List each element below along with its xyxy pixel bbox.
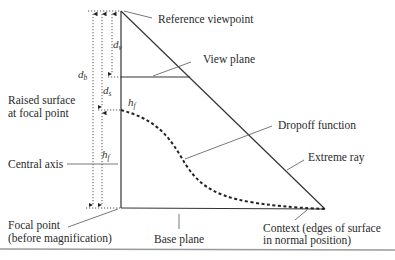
symbol-d-s: ds bbox=[103, 84, 112, 98]
label-central-axis: Central axis bbox=[8, 158, 64, 170]
label-base-plane: Base plane bbox=[154, 233, 204, 246]
label-view-plane: View plane bbox=[203, 53, 255, 66]
label-raised-surface-2: at focal point bbox=[8, 107, 69, 120]
label-reference-viewpoint: Reference viewpoint bbox=[158, 13, 254, 26]
dimension-arrows bbox=[93, 14, 112, 205]
label-dropoff-function: Dropoff function bbox=[278, 119, 356, 132]
bottom-rule bbox=[0, 249, 395, 250]
symbol-d-b: db bbox=[78, 68, 88, 82]
leader-extreme-ray bbox=[287, 160, 304, 170]
label-focal-point-1: Focal point bbox=[8, 219, 61, 232]
symbol-h-f-axis: hf bbox=[102, 148, 111, 162]
symbol-h-f-top: hf bbox=[128, 96, 137, 110]
leader-reference-viewpoint bbox=[124, 11, 152, 18]
label-focal-point-2: (before magnification) bbox=[8, 232, 112, 245]
leader-lines bbox=[67, 11, 307, 229]
distortion-viewing-diagram: Reference viewpoint View plane Raised su… bbox=[0, 0, 395, 260]
main-geometry bbox=[121, 11, 325, 209]
leader-focal-point bbox=[68, 209, 118, 227]
leader-dropoff bbox=[185, 126, 272, 159]
label-context-2: in normal position) bbox=[263, 234, 351, 247]
label-raised-surface-1: Raised surface bbox=[8, 94, 75, 106]
leader-context bbox=[295, 210, 307, 220]
label-extreme-ray: Extreme ray bbox=[308, 151, 365, 164]
extreme-ray-line bbox=[121, 11, 325, 209]
